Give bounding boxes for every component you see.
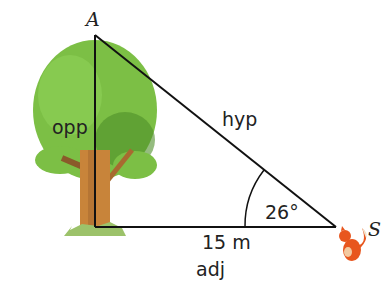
vertex-a-label: A — [86, 10, 100, 29]
opposite-label: opp — [52, 118, 88, 137]
angle-label: 26° — [265, 203, 299, 222]
adjacent-length-label: 15 m — [202, 233, 251, 252]
adjacent-label: adj — [196, 260, 225, 279]
fox-icon — [339, 226, 367, 261]
vertex-s-label: S — [368, 220, 381, 239]
hypotenuse-label: hyp — [222, 110, 257, 129]
diagram-canvas — [0, 0, 392, 297]
